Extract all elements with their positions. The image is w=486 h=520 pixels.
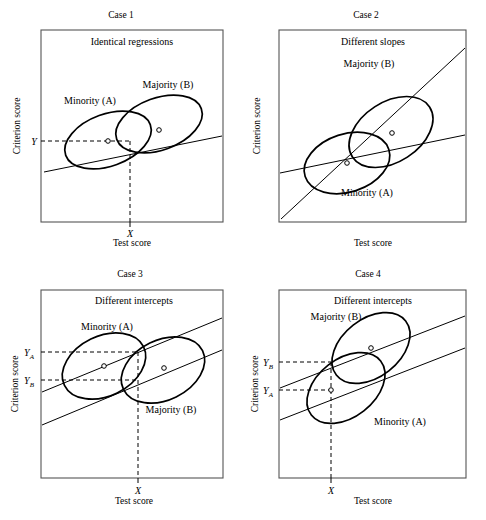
case-3-yb-tick-label: YB: [24, 375, 35, 389]
case-3-minority-centroid: [102, 364, 107, 369]
case-3-majority-centroid: [162, 366, 167, 371]
case-4-x-tick-label: X: [327, 485, 335, 496]
case-4-ya-tick-label: YA: [263, 385, 274, 399]
case-1-plot: Case 1 Identical regressions Criterion s…: [0, 0, 243, 260]
case-4-yb-tick-label: YB: [263, 357, 274, 371]
case-1-plot-frame: [41, 30, 223, 222]
case-2-majority-label: Majority (B): [344, 58, 395, 70]
panel-case-1: Case 1 Identical regressions Criterion s…: [0, 0, 243, 260]
case-1-minority-centroid: [106, 139, 111, 144]
case-4-minority-label: Minority (A): [374, 416, 426, 428]
case-3-subtitle: Different intercepts: [95, 295, 173, 306]
case-4-majority-regression-line: [280, 316, 465, 388]
case-1-majority-centroid: [157, 128, 162, 133]
case-3-y-axis-label: Criterion score: [10, 356, 20, 413]
panel-case-2: Case 2 Different slopes Criterion score …: [243, 0, 486, 260]
case-1-y-axis-label: Criterion score: [12, 98, 22, 155]
case-2-y-axis-label: Criterion score: [252, 98, 262, 155]
case-4-minority-centroid: [329, 388, 334, 393]
panel-case-3: Case 3 Different intercepts Criterion sc…: [0, 260, 243, 520]
case-1-x-tick-label: X: [126, 228, 134, 239]
case-4-subtitle: Different intercepts: [334, 295, 412, 306]
case-4-y-axis-label: Criterion score: [250, 356, 260, 413]
case-1-majority-label: Majority (B): [143, 79, 194, 91]
case-4-majority-centroid: [369, 346, 374, 351]
case-4-x-axis-label: Test score: [354, 496, 392, 506]
case-3-title: Case 3: [117, 269, 143, 279]
case-1-subtitle: Identical regressions: [91, 36, 174, 47]
case-1-minority-label: Minority (A): [64, 95, 116, 107]
case-2-majority-centroid: [390, 131, 395, 136]
figure-four-regression-cases: Case 1 Identical regressions Criterion s…: [0, 0, 486, 520]
case-4-plot: Case 4 Different intercepts Criterion sc…: [243, 260, 486, 520]
case-3-majority-label: Majority (B): [146, 404, 197, 416]
case-3-minority-label: Minority (A): [81, 321, 133, 333]
case-2-plot: Case 2 Different slopes Criterion score …: [243, 0, 486, 260]
panel-case-4: Case 4 Different intercepts Criterion sc…: [243, 260, 486, 520]
case-3-ya-tick-label: YA: [24, 347, 35, 361]
case-2-minority-label: Minority (A): [341, 187, 393, 199]
case-1-x-axis-label: Test score: [113, 238, 151, 248]
case-1-majority-ellipse: [108, 84, 210, 164]
case-4-majority-label: Majority (B): [311, 311, 362, 323]
case-2-minority-centroid: [345, 161, 350, 166]
case-1-title: Case 1: [108, 10, 134, 20]
case-4-title: Case 4: [355, 269, 381, 279]
case-2-x-axis-label: Test score: [354, 238, 392, 248]
case-3-x-axis-label: Test score: [115, 496, 153, 506]
case-2-subtitle: Different slopes: [341, 36, 405, 47]
case-1-y-tick-label: Y: [31, 136, 38, 147]
case-3-plot: Case 3 Different intercepts Criterion sc…: [0, 260, 243, 520]
case-3-x-tick-label: X: [134, 485, 142, 496]
case-2-title: Case 2: [353, 10, 379, 20]
